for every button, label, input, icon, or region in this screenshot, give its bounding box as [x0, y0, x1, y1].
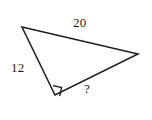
triangle-figure: 20 12 ?: [0, 0, 152, 120]
triangle-outline: [22, 27, 138, 95]
side-label-left: 12: [11, 61, 25, 74]
side-label-bottom-unknown: ?: [84, 82, 90, 95]
side-label-top: 20: [73, 16, 87, 29]
